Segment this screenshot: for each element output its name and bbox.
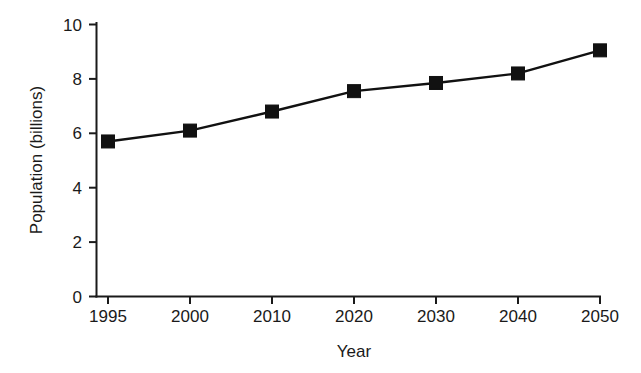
y-tick-label-5: 10 <box>63 16 82 35</box>
population-line-chart-figure: 0 2 4 6 8 10 1995 2000 2010 2020 2030 20… <box>0 0 641 373</box>
data-point-1995 <box>102 135 115 148</box>
y-axis-title: Population (billions) <box>27 86 46 234</box>
y-tick-label-1: 2 <box>73 233 82 252</box>
data-point-2030 <box>430 76 443 89</box>
x-tick-label-2020: 2020 <box>335 307 373 326</box>
x-tick-label-2040: 2040 <box>499 307 537 326</box>
x-axis-title: Year <box>337 342 372 361</box>
data-point-2020 <box>348 85 361 98</box>
x-tick-label-2050: 2050 <box>581 307 619 326</box>
y-tick-label-4: 8 <box>73 70 82 89</box>
chart-canvas: 0 2 4 6 8 10 1995 2000 2010 2020 2030 20… <box>0 0 641 373</box>
data-point-2010 <box>266 105 279 118</box>
data-point-2040 <box>512 67 525 80</box>
y-tick-label-0: 0 <box>73 288 82 307</box>
x-tick-label-2030: 2030 <box>417 307 455 326</box>
x-tick-label-1995: 1995 <box>89 307 127 326</box>
x-tick-label-2000: 2000 <box>171 307 209 326</box>
data-point-2050 <box>594 44 607 57</box>
y-tick-label-2: 4 <box>73 179 82 198</box>
y-tick-label-3: 6 <box>73 124 82 143</box>
x-tick-label-2010: 2010 <box>253 307 291 326</box>
data-point-2000 <box>184 124 197 137</box>
